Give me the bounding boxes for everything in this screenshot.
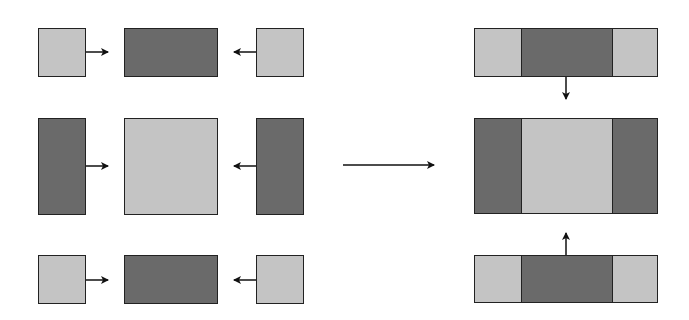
arrows-layer bbox=[0, 0, 689, 320]
